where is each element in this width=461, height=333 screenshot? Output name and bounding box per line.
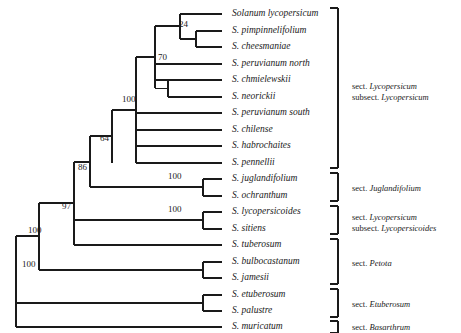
bracket-basarthrum-text: sect. Basarthrum (352, 322, 410, 333)
support-value-n_100b: 100 (28, 226, 42, 235)
bracket-basarthrum-text-line-0: sect. Basarthrum (352, 322, 410, 333)
taxonomic-epithet: Lycopersicum (381, 92, 428, 102)
taxonomic-rank: sect. (352, 81, 367, 91)
tip-label-peruvianum_north: S. peruvianum north (232, 59, 310, 69)
support-value-n_97: 97 (62, 202, 71, 211)
taxonomic-rank: sect. (352, 322, 367, 332)
bracket-petota-text-line-0: sect. Petota (352, 258, 392, 269)
tree-branches (16, 14, 222, 327)
tip-label-pennellii: S. pennellii (232, 158, 275, 168)
bracket-lycopersicoides-text: sect. Lycopersicumsubsect. Lycopersicoid… (352, 212, 436, 233)
tip-label-chmielewskii: S. chmielewskii (232, 75, 291, 85)
taxonomic-rank: sect. (352, 299, 367, 309)
phylogenetic-tree-figure: Solanum lycopersicumS. pimpinnelifoliumS… (0, 0, 461, 333)
tip-label-habrochaites: S. habrochaites (232, 141, 291, 151)
bracket-etuberosum-text-line-0: sect. Etuberosum (352, 299, 410, 310)
tip-label-tuberosum: S. tuberosum (232, 240, 281, 250)
tip-label-neorickii: S. neorickii (232, 92, 275, 102)
tip-label-etuberosum: S. etuberosum (232, 290, 285, 300)
taxonomic-epithet: Lycopersicum (369, 81, 416, 91)
tip-label-jamesii: S. jamesii (232, 273, 269, 283)
support-value-n_100a: 100 (122, 95, 136, 104)
taxonomic-rank: sect. (352, 258, 367, 268)
bracket-lycopersicoides-text-line-1: subsect. Lycopersicoides (352, 223, 436, 234)
taxonomic-epithet: Basarthrum (369, 322, 410, 332)
tip-label-ochranthum: S. ochranthum (232, 191, 287, 201)
taxonomic-epithet: Lycopersicoides (381, 223, 436, 233)
support-value-n_24: 24 (179, 20, 188, 29)
tip-label-pimpinnelifolium: S. pimpinnelifolium (232, 26, 306, 36)
support-value-n_root: 100 (22, 260, 36, 269)
tree-canvas (0, 0, 461, 333)
tip-label-cheesmaniae: S. cheesmaniae (232, 42, 291, 52)
tip-label-sitiens: S. sitiens (232, 224, 266, 234)
taxonomic-rank: subsect. (352, 92, 379, 102)
taxonomic-rank: sect. (352, 212, 367, 222)
support-value-n_70: 70 (158, 53, 167, 62)
taxonomic-epithet: Lycopersicum (369, 212, 416, 222)
taxonomic-epithet: Juglandifolium (369, 183, 420, 193)
taxonomic-rank: subsect. (352, 223, 379, 233)
tip-label-lycopersicum: Solanum lycopersicum (232, 9, 318, 19)
tip-label-chilense: S. chilense (232, 125, 273, 135)
support-value-n_86: 86 (78, 163, 87, 172)
bracket-lycopersicum-text: sect. Lycopersicumsubsect. Lycopersicum (352, 81, 429, 102)
tip-label-juglandifolium: S. juglandifolium (232, 174, 297, 184)
taxonomic-epithet: Petota (369, 258, 391, 268)
bracket-juglandifolium-text: sect. Juglandifolium (352, 183, 421, 194)
support-value-n_lyd: 100 (168, 205, 182, 214)
support-value-n_jug: 100 (168, 172, 182, 181)
section-brackets (330, 8, 338, 333)
support-value-n_64: 64 (100, 134, 109, 143)
taxonomic-epithet: Etuberosum (369, 299, 410, 309)
bracket-lycopersicoides-text-line-0: sect. Lycopersicum (352, 212, 436, 223)
tip-label-muricatum: S. muricatum (232, 322, 283, 332)
bracket-petota-text: sect. Petota (352, 258, 392, 269)
taxonomic-rank: sect. (352, 183, 367, 193)
bracket-lycopersicum-text-line-0: sect. Lycopersicum (352, 81, 429, 92)
tip-label-bulbocastanum: S. bulbocastanum (232, 257, 300, 267)
tip-label-palustre: S. palustre (232, 306, 272, 316)
bracket-juglandifolium-text-line-0: sect. Juglandifolium (352, 183, 421, 194)
bracket-etuberosum-text: sect. Etuberosum (352, 299, 410, 310)
bracket-lycopersicum-text-line-1: subsect. Lycopersicum (352, 92, 429, 103)
tip-label-lycopersicoides: S. lycopersicoides (232, 207, 301, 217)
tip-label-peruvianum_south: S. peruvianum south (232, 108, 310, 118)
